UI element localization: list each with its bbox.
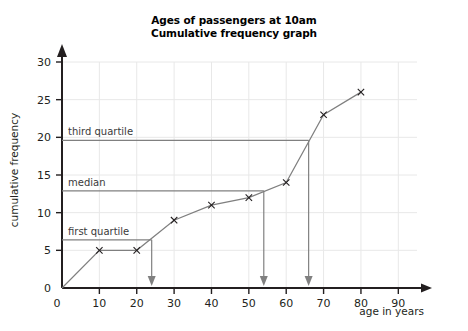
cumulative-frequency-figure: Ages of passengers at 10am Cumulative fr… bbox=[0, 0, 468, 331]
y-tick-label-15: 15 bbox=[37, 169, 51, 182]
y-axis-label: cumulative frequency bbox=[8, 113, 20, 227]
x-tick-label-50: 50 bbox=[242, 297, 256, 310]
x-tick-label-20: 20 bbox=[130, 297, 144, 310]
x-tick-label-0: 0 bbox=[54, 297, 61, 310]
y-tick-label-25: 25 bbox=[37, 94, 51, 107]
y-tick-label-20: 20 bbox=[37, 131, 51, 144]
chart-title: Ages of passengers at 10am bbox=[151, 14, 316, 26]
x-axis-label: age in years bbox=[359, 305, 424, 317]
annotation-label-third-quartile: third quartile bbox=[68, 126, 133, 137]
y-tick-label-0: 0 bbox=[44, 282, 51, 295]
chart-canvas: Ages of passengers at 10am Cumulative fr… bbox=[0, 0, 468, 331]
x-tick-label-30: 30 bbox=[167, 297, 181, 310]
y-tick-label-10: 10 bbox=[37, 207, 51, 220]
x-tick-label-10: 10 bbox=[92, 297, 106, 310]
chart-subtitle: Cumulative frequency graph bbox=[151, 27, 317, 39]
x-tick-label-70: 70 bbox=[317, 297, 331, 310]
x-tick-label-60: 60 bbox=[279, 297, 293, 310]
chart-background bbox=[0, 0, 468, 331]
y-tick-label-5: 5 bbox=[44, 244, 51, 257]
y-tick-label-30: 30 bbox=[37, 56, 51, 69]
annotation-label-median: median bbox=[68, 177, 106, 188]
annotation-label-first-quartile: first quartile bbox=[68, 226, 129, 237]
x-tick-label-40: 40 bbox=[204, 297, 218, 310]
